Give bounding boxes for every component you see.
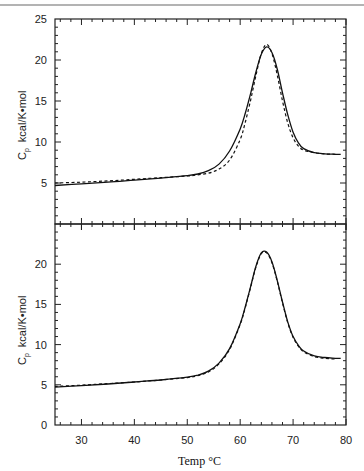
series-experimental bbox=[55, 251, 341, 387]
svg-text:Cpkcal/K•mol: Cpkcal/K•mol bbox=[16, 91, 31, 160]
y-tick-label: 25 bbox=[35, 13, 47, 25]
plot-frame bbox=[55, 19, 346, 224]
x-tick-label: 50 bbox=[181, 434, 193, 446]
y-tick-label: 20 bbox=[35, 258, 47, 270]
x-tick-label: 60 bbox=[234, 434, 246, 446]
y-tick-label: 15 bbox=[35, 298, 47, 310]
x-tick-label: 80 bbox=[340, 434, 352, 446]
x-tick-label: 40 bbox=[128, 434, 140, 446]
plot-frame bbox=[55, 224, 346, 425]
x-tick-label: 70 bbox=[287, 434, 299, 446]
y-tick-label: 0 bbox=[41, 419, 47, 431]
series-fit bbox=[55, 252, 335, 386]
x-tick-label: 30 bbox=[75, 434, 87, 446]
series-experimental bbox=[55, 47, 341, 186]
y-tick-label: 5 bbox=[41, 177, 47, 189]
top-panel: 510152025 bbox=[35, 13, 346, 230]
y-axis-label-top: Cpkcal/K•mol bbox=[16, 91, 31, 160]
series-fit bbox=[55, 44, 335, 183]
y-tick-label: 20 bbox=[35, 54, 47, 66]
y-tick-label: 5 bbox=[41, 379, 47, 391]
y-tick-label: 15 bbox=[35, 95, 47, 107]
svg-text:Cpkcal/K•mol: Cpkcal/K•mol bbox=[16, 296, 31, 365]
y-axis-label-bottom: Cpkcal/K•mol bbox=[16, 296, 31, 365]
dsc-chart: 510152025 05101520304050607080 Cpkcal/K•… bbox=[0, 0, 364, 471]
bottom-panel: 05101520304050607080 bbox=[35, 224, 352, 446]
y-tick-label: 10 bbox=[35, 136, 47, 148]
y-tick-label: 10 bbox=[35, 339, 47, 351]
x-axis-title: Temp °C bbox=[178, 454, 221, 468]
